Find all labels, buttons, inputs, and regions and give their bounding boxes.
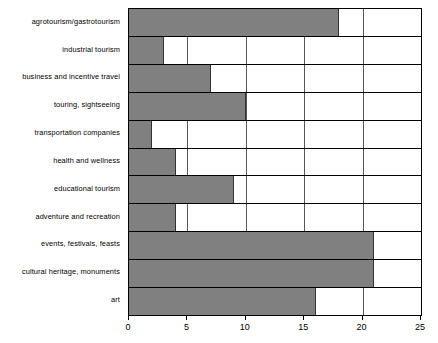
x-tick-label: 20: [357, 322, 367, 332]
bar-row: [129, 232, 421, 260]
x-tick-15: [303, 315, 304, 320]
x-axis: 0510152025: [128, 315, 421, 343]
category-label: touring, sightseeing: [0, 91, 124, 119]
bar: [129, 9, 339, 36]
bar-row: [129, 65, 421, 93]
x-tick-10: [245, 315, 246, 320]
bar-row: [129, 9, 421, 37]
category-label: health and wellness: [0, 147, 124, 175]
category-axis-labels: agrotourism/gastrotourism industrial tou…: [0, 8, 124, 314]
category-label: events, festivals, feasts: [0, 231, 124, 259]
x-tick-20: [362, 315, 363, 320]
category-label: adventure and recreation: [0, 203, 124, 231]
bar: [129, 204, 176, 231]
bar: [129, 232, 374, 259]
category-label: educational tourism: [0, 175, 124, 203]
x-tick-25: [420, 315, 421, 320]
x-tick-label: 5: [184, 322, 189, 332]
category-label: industrial tourism: [0, 36, 124, 64]
bar-row: [129, 93, 421, 121]
bar-row: [129, 288, 421, 315]
bar: [129, 65, 211, 92]
x-tick-0: [128, 315, 129, 320]
plot-area: [128, 8, 422, 316]
category-label: transportation companies: [0, 119, 124, 147]
bar-series: [129, 9, 421, 315]
x-tick-label: 25: [415, 322, 425, 332]
bar: [129, 288, 316, 315]
category-label: art: [0, 286, 124, 314]
bar-row: [129, 121, 421, 149]
bar: [129, 37, 164, 64]
bar-row: [129, 176, 421, 204]
bar: [129, 149, 176, 176]
bar-row: [129, 149, 421, 177]
x-tick-label: 0: [125, 322, 130, 332]
bar: [129, 93, 246, 120]
x-tick-label: 15: [298, 322, 308, 332]
x-tick-label: 10: [240, 322, 250, 332]
category-label: agrotourism/gastrotourism: [0, 8, 124, 36]
bar-chart: agrotourism/gastrotourism industrial tou…: [0, 0, 438, 343]
bar-row: [129, 37, 421, 65]
bar-row: [129, 204, 421, 232]
x-tick-5: [186, 315, 187, 320]
category-label: business and incentive travel: [0, 64, 124, 92]
bar: [129, 176, 234, 203]
bar-row: [129, 260, 421, 288]
bar: [129, 121, 152, 148]
bar: [129, 260, 374, 287]
category-label: cultural heritage, monuments: [0, 258, 124, 286]
